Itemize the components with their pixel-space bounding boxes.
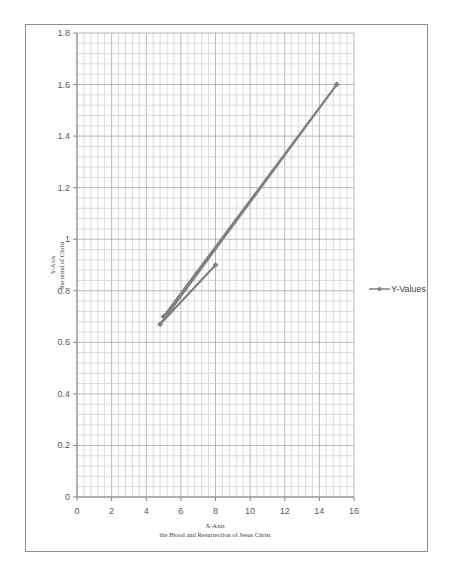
x-tick-label: 12 <box>280 506 290 516</box>
x-tick-label: 14 <box>314 506 324 516</box>
y-tick-label: 1.6 <box>57 80 70 90</box>
y-axis-title: Y-Axis <box>49 255 56 274</box>
y-tick-label: 1.8 <box>57 28 70 38</box>
x-tick-label: 4 <box>144 506 149 516</box>
y-tick-label: 0.6 <box>57 337 70 347</box>
y-tick-label: 0.4 <box>57 389 70 399</box>
legend-diamond-icon <box>377 287 382 292</box>
y-tick-label: 0.2 <box>57 440 70 450</box>
x-axis-title: X-Axis <box>205 522 225 529</box>
x-tick-label: 6 <box>178 506 183 516</box>
y-tick-label: 1.4 <box>57 131 70 141</box>
x-axis-subtitle: the Blood and Resurrection of Jesus Chri… <box>159 531 270 538</box>
chart-svg: 024681012141600.20.40.60.811.21.41.61.8 … <box>0 0 452 582</box>
x-tick-label: 8 <box>213 506 218 516</box>
legend: Y-Values <box>369 284 427 294</box>
legend-label: Y-Values <box>391 284 427 294</box>
x-tick-label: 16 <box>349 506 359 516</box>
y-axis-subtitle: the mind of Christ <box>58 241 65 289</box>
y-tick-label: 1.2 <box>57 183 70 193</box>
y-tick-label: 1 <box>65 234 70 244</box>
y-tick-label: 0 <box>65 492 70 502</box>
x-tick-label: 10 <box>245 506 255 516</box>
series-line <box>160 85 337 325</box>
x-tick-label: 2 <box>109 506 114 516</box>
x-tick-label: 0 <box>74 506 79 516</box>
